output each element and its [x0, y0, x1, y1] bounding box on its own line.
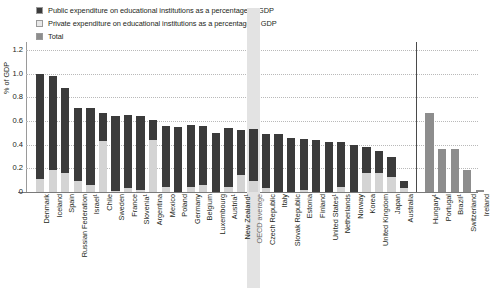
- bar-segment-public: [312, 140, 320, 192]
- x-tick-label: Spain: [68, 194, 75, 213]
- plot-area: 1.21.00.80.60.40.20: [26, 50, 478, 192]
- bar-segment-private: [149, 140, 157, 192]
- bar-segment-private: [61, 173, 69, 192]
- bar-segment-public: [300, 139, 308, 190]
- bar-segment-private: [111, 191, 119, 192]
- bar-segment-public: [325, 142, 333, 192]
- bar-segment-public: [212, 133, 220, 192]
- bar-segment-private: [136, 190, 144, 192]
- bar-segment-public: [49, 76, 57, 169]
- bar-segment-public: [149, 120, 157, 140]
- bar-segment-private: [300, 190, 308, 192]
- x-tick-label: Russian Federation: [81, 194, 88, 257]
- bar-segment-private: [387, 177, 395, 192]
- y-axis-line: [26, 42, 27, 192]
- bar-segment-private: [162, 187, 170, 192]
- x-tick-label: Luxembourg: [219, 194, 226, 235]
- x-tick-label: Norway: [357, 194, 364, 219]
- x-tick-label: Switzerland: [470, 194, 477, 232]
- x-axis-labels: DenmarkIcelandSpainRussian FederationIsr…: [26, 194, 478, 289]
- y-tick-label: 0.2: [12, 165, 23, 173]
- y-tick-label: 0.8: [12, 94, 23, 102]
- bar-segment-private: [199, 185, 207, 192]
- x-tick-label: Denmark: [43, 194, 50, 224]
- x-tick-label: New Zealand¹: [244, 194, 251, 239]
- bar-segment-private: [400, 188, 408, 192]
- bar-segment-public: [375, 151, 383, 173]
- x-tick-label: Ireland: [483, 194, 490, 216]
- x-tick-label: United States¹: [332, 194, 339, 240]
- bar-segment-public: [99, 113, 107, 141]
- bar-segment-total: [451, 149, 459, 192]
- y-tick-label: 0.4: [12, 141, 23, 149]
- y-axis-label: % of GDP: [2, 62, 11, 94]
- y-tick-label: 1.0: [12, 70, 23, 78]
- bar-segment-total: [425, 113, 433, 192]
- x-tick-label: Estonia: [306, 194, 313, 218]
- medium-gray-swatch-icon: [36, 33, 43, 40]
- x-tick-label: Mexico: [169, 194, 176, 217]
- bar-segment-total: [476, 190, 484, 192]
- bar-segment-public: [187, 125, 195, 188]
- y-tick-label: 1.2: [12, 46, 23, 54]
- bar-segment-public: [224, 128, 232, 187]
- x-tick-label: Finland: [319, 194, 326, 218]
- bar-segment-private: [249, 181, 257, 192]
- x-tick-label: Slovenia¹: [143, 194, 150, 224]
- bar-segment-private: [224, 187, 232, 192]
- x-tick-label: Chile: [106, 194, 113, 211]
- bar-segment-public: [124, 115, 132, 188]
- bar-segment-public: [86, 108, 94, 185]
- bar-segment-public: [262, 134, 270, 188]
- bar-segment-total: [438, 149, 446, 192]
- bar-segment-private: [362, 173, 370, 192]
- x-tick-label: Italy: [281, 194, 288, 207]
- x-tick-label: Hungary¹: [432, 194, 439, 224]
- x-tick-label: Netherlands: [344, 194, 351, 233]
- dark-gray-swatch-icon: [36, 7, 43, 14]
- bar-segment-public: [199, 126, 207, 185]
- bar-segment-private: [86, 185, 94, 192]
- x-tick-label: Belgium: [206, 194, 213, 220]
- y-tick-label: 0.6: [12, 117, 23, 125]
- bar-segment-private: [375, 173, 383, 192]
- x-tick-label: Brazil¹: [457, 194, 464, 215]
- bar-segment-private: [99, 141, 107, 192]
- bar-segment-public: [362, 147, 370, 173]
- bar-segment-public: [136, 116, 144, 189]
- x-tick-label: Sweden: [118, 194, 125, 220]
- light-gray-swatch-icon: [36, 20, 43, 27]
- panel-divider: [416, 42, 417, 192]
- bar-segment-public: [74, 108, 82, 181]
- bar-segment-total: [463, 170, 471, 192]
- bar-segment-public: [111, 116, 119, 191]
- x-tick-label: France: [131, 194, 138, 217]
- bar-segment-public: [162, 126, 170, 188]
- bar-segment-public: [274, 134, 282, 192]
- bar-segment-private: [187, 187, 195, 192]
- x-tick-label: Japan: [394, 194, 401, 214]
- x-tick-label: Korea: [369, 194, 376, 213]
- bar-segment-public: [249, 129, 257, 181]
- bar-segment-public: [61, 88, 69, 173]
- bar-segment-private: [124, 188, 132, 192]
- x-tick-label: Iceland: [56, 194, 63, 218]
- legend-label-private: Private expenditure on educational insti…: [48, 19, 277, 28]
- x-tick-label: Portugal: [445, 194, 452, 221]
- x-tick-label: Czech Republic: [269, 194, 276, 245]
- x-tick-label: Argentina: [156, 194, 163, 225]
- x-tick-label: OECD average: [256, 194, 263, 243]
- legend-label-public: Public expenditure on educational instit…: [48, 6, 274, 15]
- x-tick-label: Israel¹: [93, 194, 100, 214]
- bar-segment-public: [237, 130, 245, 175]
- bar-segment-private: [49, 170, 57, 192]
- bar-segment-public: [36, 74, 44, 179]
- bar-segment-public: [387, 157, 395, 177]
- bar-segment-private: [36, 179, 44, 192]
- y-tick-label: 0: [19, 188, 23, 196]
- bar-segment-public: [350, 145, 358, 192]
- bar-segment-public: [174, 127, 182, 192]
- x-tick-label: Slovak Republic: [294, 194, 301, 246]
- bar-segment-private: [237, 175, 245, 192]
- bar-segment-public: [337, 142, 345, 187]
